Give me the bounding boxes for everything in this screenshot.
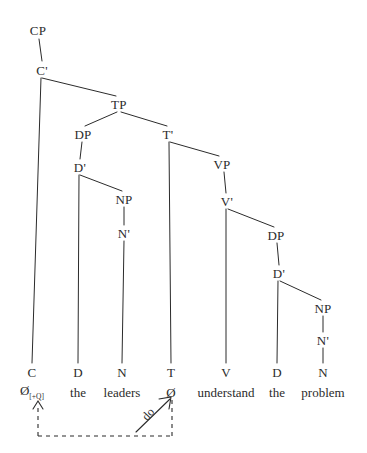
node-np-subject: NP xyxy=(115,193,132,206)
terminal-category-n-2: N xyxy=(117,366,127,379)
terminal-word-6: problem xyxy=(301,386,344,399)
node-dp-object: DP xyxy=(267,229,284,242)
terminal-feature-0: [+Q] xyxy=(29,392,44,401)
branch-nbarsubj-n xyxy=(122,241,124,363)
node-cp: CP xyxy=(30,24,47,37)
branch-dbarsubj-d xyxy=(78,175,79,363)
node-c-bar: C' xyxy=(36,64,48,77)
terminal-category-n-6: N xyxy=(318,366,328,379)
branch-cbar-tp xyxy=(42,78,116,96)
terminal-category-t-3: T xyxy=(167,366,175,379)
terminal-word-2: leaders xyxy=(104,386,141,399)
branch-tp-dpsubj xyxy=(85,112,117,126)
node-dp-subject: DP xyxy=(74,128,91,141)
node-n-bar-subject: N' xyxy=(118,227,130,240)
terminal-word-3: Ø xyxy=(166,386,175,399)
terminal-word-1: the xyxy=(70,386,86,399)
branch-vp-vbar xyxy=(224,172,226,193)
node-t-bar: T' xyxy=(163,128,174,141)
node-n-bar-object: N' xyxy=(317,334,329,347)
terminal-category-c-0: C xyxy=(28,366,37,379)
syntax-tree-figure: CP C' TP DP T' D' VP NP V' N' DP D' NP N… xyxy=(0,0,367,453)
terminal-word-0: Ø[+Q] xyxy=(20,384,44,400)
branch-cbar-c xyxy=(32,78,41,363)
terminal-category-d-5: D xyxy=(272,366,282,379)
terminal-category-d-1: D xyxy=(73,366,83,379)
movement-arrowhead-to-c xyxy=(33,401,43,409)
branch-dbarsubj-npsubj xyxy=(80,175,122,191)
branch-dpsubj-dbarsubj xyxy=(80,142,82,159)
branch-tbar-vp xyxy=(170,142,219,156)
node-v-bar: V' xyxy=(221,195,233,208)
branch-tp-tbar xyxy=(121,112,167,126)
terminal-category-v-4: V xyxy=(221,366,231,379)
branch-dpobj-dbarobj xyxy=(277,243,279,265)
branch-dbarobj-d xyxy=(277,281,278,363)
branch-tbar-t xyxy=(169,142,171,363)
node-tp: TP xyxy=(111,98,127,111)
node-d-bar-subject: D' xyxy=(74,161,86,174)
branch-cp-cbar xyxy=(39,39,42,61)
terminal-word-5: the xyxy=(269,386,285,399)
node-d-bar-object: D' xyxy=(273,267,285,280)
branch-vbar-dpobj xyxy=(228,209,274,227)
node-np-object: NP xyxy=(314,302,331,315)
terminal-word-4: understand xyxy=(197,386,254,399)
node-vp: VP xyxy=(213,158,230,171)
branch-dbarobj-npobj xyxy=(280,281,321,300)
